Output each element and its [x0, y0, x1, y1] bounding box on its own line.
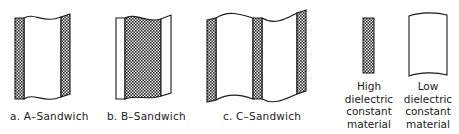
b-sandwich-panel — [116, 15, 171, 99]
legend-high-label: High dielectric constant material — [343, 80, 395, 130]
a-sandwich-panel — [15, 14, 70, 99]
c-middle-high-skin — [253, 18, 262, 99]
a-right-high-skin — [61, 14, 70, 97]
legend-low-swatch — [409, 13, 447, 76]
caption-c-sandwich: c. C–Sandwich — [223, 110, 301, 122]
caption-a-sandwich: a. A–Sandwich — [10, 110, 89, 122]
caption-b-sandwich: b. B–Sandwich — [107, 110, 186, 122]
legend-low-label: Low dielectric constant material — [402, 80, 454, 130]
c-right-low-core — [262, 13, 297, 102]
b-left-low-skin — [116, 18, 125, 99]
legend-high-swatch — [363, 18, 374, 73]
b-high-dielectric-core — [125, 16, 161, 99]
c-sandwich-panel — [207, 10, 306, 102]
c-right-high-skin — [297, 10, 306, 94]
b-right-low-skin — [161, 15, 171, 96]
a-low-dielectric-core — [24, 16, 61, 99]
c-left-low-core — [216, 13, 253, 100]
a-left-high-skin — [15, 18, 24, 99]
c-left-high-skin — [207, 18, 216, 102]
